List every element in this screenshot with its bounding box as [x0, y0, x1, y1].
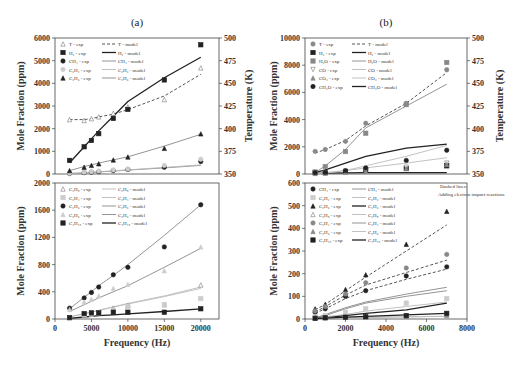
marker-square-icon — [162, 310, 166, 314]
marker-triangle-icon — [311, 212, 315, 216]
figure-canvas: (a) (b) Mole Fraction (ppm) Mole Fractio… — [0, 0, 512, 366]
marker-square-icon — [199, 296, 203, 300]
x-tick-label: 0 — [303, 324, 307, 333]
marker-square-icon — [126, 107, 130, 111]
y2-tick-label: 450 — [472, 79, 484, 88]
legend-label: C₄H₁₀ - exp — [319, 238, 343, 243]
x-tick-label: 4000 — [378, 324, 394, 333]
legend-label: C₂H₆ - exp — [69, 76, 91, 81]
marker-triangle-icon — [61, 187, 65, 191]
marker-circle-icon — [404, 274, 408, 278]
legend-label: C₃H₆ - exp — [319, 230, 341, 235]
y-tick-label: 500 — [288, 202, 300, 211]
y2-tick-label: 350 — [472, 170, 484, 179]
x-tick-label: 8000 — [459, 324, 475, 333]
legend-label: C₂H₄ - exp — [319, 221, 341, 226]
marker-circle-icon — [111, 168, 115, 172]
panel-a-xlabel: Frequency (Hz) — [104, 337, 171, 349]
y-tick-label: 10000 — [280, 34, 300, 43]
panel-b-y2label: Temperature (K) — [494, 70, 506, 143]
marker-circle-icon — [343, 168, 347, 172]
series-line — [315, 145, 447, 173]
y-tick-label: 1600 — [34, 206, 50, 215]
legend-label: CH₄ - model — [368, 187, 394, 192]
y2-tick-label: 475 — [224, 57, 236, 66]
y-tick-label: 4000 — [284, 116, 300, 125]
y-tick-label: 1000 — [34, 147, 50, 156]
legend-label: C₂H₂ - exp — [69, 68, 91, 73]
marker-circle-icon — [111, 273, 115, 277]
panel-b-xlabel: Frequency (Hz) — [353, 337, 420, 349]
marker-square-icon — [97, 131, 101, 135]
annotation-electron-impact: Adding electron impact reactions — [438, 192, 505, 197]
marker-square-icon — [89, 311, 93, 315]
legend-label: H₂O - exp — [319, 59, 340, 64]
y2-tick-label: 475 — [472, 57, 484, 66]
y-tick-label: 2000 — [34, 179, 50, 188]
marker-triangle-icon — [61, 42, 65, 46]
marker-square-icon — [126, 305, 130, 309]
marker-square-icon — [126, 310, 130, 314]
legend-label: C₂H₂ - model — [118, 68, 146, 73]
legend-label: C₄H₁₀ - model — [368, 238, 397, 243]
marker-square-icon — [97, 311, 101, 315]
marker-circle-icon — [404, 158, 408, 162]
marker-square-icon — [61, 221, 65, 225]
legend-label: CH₂O - model — [368, 85, 398, 90]
marker-circle-icon — [364, 121, 368, 125]
legend: T - expT - modelH₂ - expH₂ - modelH₂O - … — [311, 42, 398, 90]
y-tick-label: 400 — [38, 288, 50, 297]
marker-circle-icon — [199, 157, 203, 161]
legend-label: CO - model — [368, 68, 392, 73]
marker-circle-icon — [311, 84, 315, 88]
y2-tick-label: 375 — [224, 147, 236, 156]
y-tick-label: 6000 — [34, 34, 50, 43]
panel-a-title: (a) — [131, 16, 144, 29]
marker-circle-icon — [61, 204, 65, 208]
legend-label: C₂H₆ - model — [118, 76, 146, 81]
legend-label: C₂H₆ - exp — [69, 213, 91, 218]
marker-triangle-icon — [111, 286, 115, 290]
panel-a-y2label: Temperature (K) — [243, 70, 255, 143]
y-tick-label: 2000 — [34, 125, 50, 134]
legend-label: C₃H₈ - model — [368, 213, 396, 218]
marker-square-icon — [82, 145, 86, 149]
series-line — [315, 287, 447, 318]
marker-square-icon — [364, 315, 368, 319]
marker-triangle-icon — [199, 245, 203, 249]
marker-circle-icon — [311, 221, 315, 225]
marker-circle-icon — [343, 292, 347, 296]
panel-b-title: (b) — [380, 16, 393, 29]
marker-triangle-icon — [97, 294, 101, 298]
legend-label: C₂H₄ - model — [118, 196, 146, 201]
y-tick-label: 3000 — [34, 102, 50, 111]
series-line — [315, 84, 447, 172]
marker-circle-icon — [82, 170, 86, 174]
legend-label: C₂H₆ - model — [368, 204, 396, 209]
marker-triangle-icon — [89, 297, 93, 301]
legend-label: C₂H₄ - model — [368, 221, 396, 226]
y-tick-label: 0 — [46, 170, 50, 179]
y2-tick-label: 425 — [472, 102, 484, 111]
legend-label: H₂ - exp — [319, 51, 336, 56]
x-tick-label: 6000 — [419, 324, 435, 333]
marker-square-icon — [89, 138, 93, 142]
marker-square-icon — [364, 131, 368, 135]
marker-triangle-icon — [126, 282, 130, 286]
marker-circle-icon — [61, 59, 65, 63]
y-tick-label: 6000 — [284, 88, 300, 97]
marker-square-icon — [364, 307, 368, 311]
legend-label: C₂H₆ - model — [118, 213, 146, 218]
marker-triangle-icon — [199, 66, 203, 70]
marker-triangle-icon — [404, 242, 408, 246]
marker-triangle-icon — [82, 300, 86, 304]
marker-square-icon — [162, 303, 166, 307]
marker-square-icon — [311, 50, 315, 54]
x-tick-label: 10000 — [118, 324, 138, 333]
marker-circle-icon — [445, 148, 449, 152]
marker-circle-icon — [89, 290, 93, 294]
marker-circle-icon — [445, 252, 449, 256]
marker-circle-icon — [364, 166, 368, 170]
legend: T - expT - modelH₂ - expH₂ - modelCH₄ - … — [61, 42, 146, 81]
marker-square-icon — [67, 158, 71, 162]
